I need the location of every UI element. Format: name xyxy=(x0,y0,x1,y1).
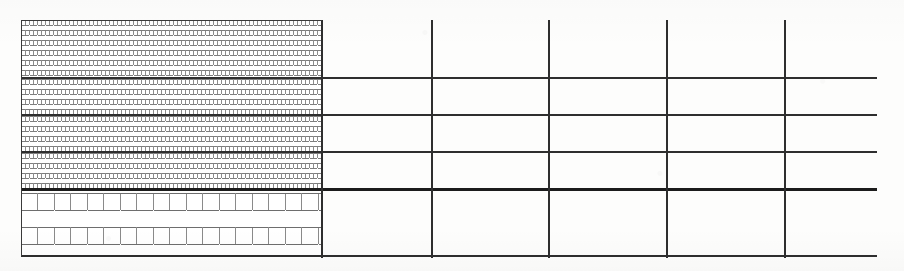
course-line-3 xyxy=(21,151,877,153)
bay-line-1 xyxy=(431,20,433,258)
block-course-band xyxy=(21,193,322,258)
brick-course-band-4 xyxy=(21,153,322,189)
brick-course-band-3 xyxy=(21,116,322,152)
base-line xyxy=(21,255,877,257)
bay-line-3 xyxy=(666,20,668,258)
texture-left-edge xyxy=(21,20,22,256)
brick-course-band-1 xyxy=(21,20,322,78)
texture-top-edge xyxy=(21,20,322,21)
bay-line-4 xyxy=(784,20,786,258)
scanned-drawing-page xyxy=(0,0,904,271)
texture-boundary-line xyxy=(321,20,323,258)
course-line-2 xyxy=(21,114,877,116)
course-line-1 xyxy=(21,77,877,79)
bay-line-2 xyxy=(548,20,550,258)
course-line-4 xyxy=(21,188,877,191)
brick-course-band-2 xyxy=(21,79,322,115)
